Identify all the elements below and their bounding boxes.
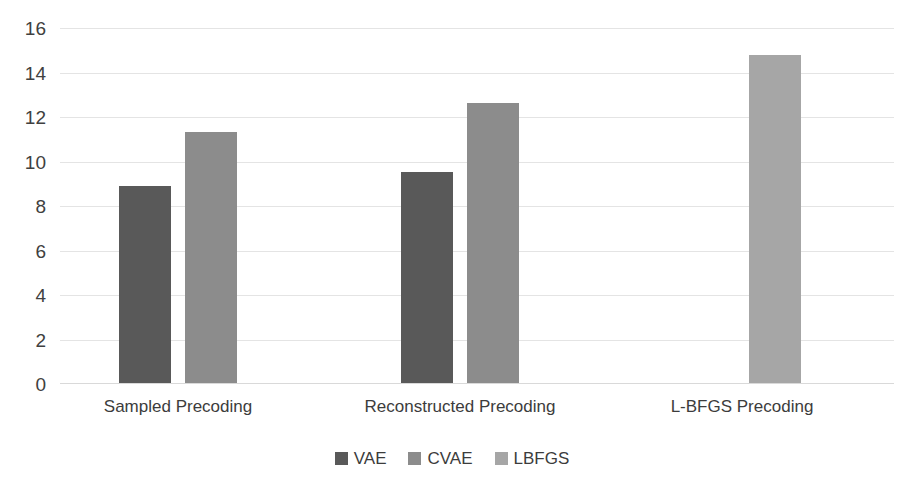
y-tick-label: 12 <box>0 108 46 127</box>
category-label-reconstructed: Reconstructed Precoding <box>365 396 556 418</box>
category-label-lbfgs: L-BFGS Precoding <box>671 396 814 418</box>
gridline-16 <box>60 28 894 29</box>
y-tick-label: 8 <box>0 197 46 216</box>
plot-area <box>60 28 894 384</box>
legend-item-vae[interactable]: VAE <box>335 450 387 467</box>
x-axis-labels: Sampled Precoding Reconstructed Precodin… <box>60 396 894 422</box>
y-tick-label: 10 <box>0 152 46 171</box>
bar-reconstructed-cvae <box>467 103 519 383</box>
y-tick-label: 2 <box>0 330 46 349</box>
legend-swatch-icon <box>335 452 348 465</box>
y-tick-label: 16 <box>0 19 46 38</box>
axis-baseline <box>60 383 894 384</box>
legend-item-cvae[interactable]: CVAE <box>408 450 472 467</box>
bar-reconstructed-vae <box>401 172 453 383</box>
y-tick-label: 4 <box>0 286 46 305</box>
legend-item-lbfgs[interactable]: LBFGS <box>495 450 570 467</box>
legend-label: LBFGS <box>514 450 570 467</box>
bar-lbfgs-lbfgs <box>749 55 801 383</box>
legend-label: CVAE <box>427 450 472 467</box>
y-tick-label: 6 <box>0 241 46 260</box>
legend-label: VAE <box>354 450 387 467</box>
y-tick-label: 14 <box>0 63 46 82</box>
legend-swatch-icon <box>495 452 508 465</box>
bar-sampled-vae <box>119 186 171 383</box>
legend-swatch-icon <box>408 452 421 465</box>
category-label-sampled: Sampled Precoding <box>104 396 252 418</box>
bar-chart: 16 14 12 10 8 6 4 2 0 Sampled Precoding … <box>0 0 904 488</box>
y-axis-labels: 16 14 12 10 8 6 4 2 0 <box>0 28 46 384</box>
y-tick-label: 0 <box>0 375 46 394</box>
bar-sampled-cvae <box>185 132 237 383</box>
chart-legend: VAE CVAE LBFGS <box>0 450 904 467</box>
